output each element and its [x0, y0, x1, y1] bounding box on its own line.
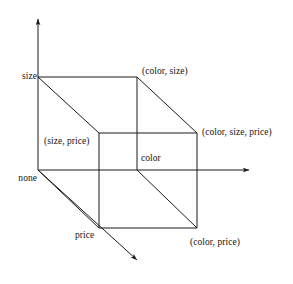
- vertex-label-size-price: (size, price): [44, 136, 89, 147]
- edge-colorsize-to-colorsizeprice: [137, 77, 197, 133]
- edge-color-to-colorprice: [137, 170, 197, 228]
- vertex-label-none: none: [0, 173, 37, 184]
- vertex-label-price: price: [75, 230, 94, 241]
- edge-none-to-price: [38, 170, 99, 228]
- vertex-label-color-size-price: (color, size, price): [202, 127, 272, 138]
- vertex-label-color-price: (color, price): [190, 237, 240, 248]
- vertex-label-color-size: (color, size): [142, 66, 188, 77]
- vertex-label-color: color: [141, 153, 161, 164]
- lattice-cube-figure: size none (color, size) (color, size, pr…: [0, 0, 293, 284]
- edge-size-to-sizeprice: [38, 77, 99, 133]
- vertex-label-size: size: [0, 71, 37, 82]
